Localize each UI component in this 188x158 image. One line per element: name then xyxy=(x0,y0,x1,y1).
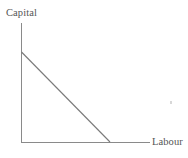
trade-off-line xyxy=(22,52,111,142)
plot-area xyxy=(0,0,188,158)
y-axis-label: Capital xyxy=(6,7,37,18)
scan-artifact-speck xyxy=(170,101,172,104)
x-axis-label: Labour xyxy=(152,136,183,147)
economics-line-figure: Capital Labour xyxy=(0,0,188,158)
